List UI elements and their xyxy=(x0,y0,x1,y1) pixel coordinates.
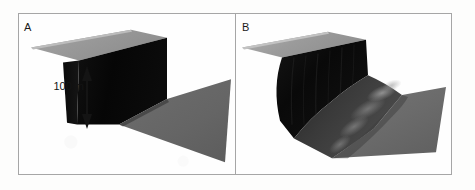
figure-root: A 100 m xyxy=(0,0,475,190)
panel-b: B xyxy=(236,14,453,174)
figure-frame: A 100 m xyxy=(18,13,452,175)
panel-a: A 100 m xyxy=(19,14,235,174)
scale-bar-label: 100 m xyxy=(40,80,84,92)
panel-b-terrain-render xyxy=(236,14,453,174)
panel-b-label: B xyxy=(242,22,250,33)
panel-a-label: A xyxy=(24,22,32,33)
scale-bar-annotation: 100 m xyxy=(39,54,109,129)
